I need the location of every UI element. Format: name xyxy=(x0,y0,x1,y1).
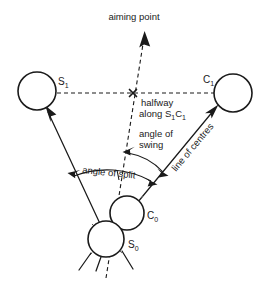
halfway-along-s-text: along S xyxy=(139,108,171,119)
halfway-label-line1: halfway xyxy=(141,97,173,108)
aiming-point-arrowhead xyxy=(139,31,150,48)
ball-label-c0-main: C xyxy=(147,210,154,221)
ball-label-s1-sub: 1 xyxy=(65,82,69,89)
ball-label-s1: S1 xyxy=(58,76,69,89)
angle-of-split-label: angle of split xyxy=(82,164,137,181)
ball-s0 xyxy=(88,221,124,257)
angle-of-swing-label-line1: angle of xyxy=(139,128,173,139)
angle-of-split-arrow-right xyxy=(145,178,157,187)
impact-ray-left xyxy=(79,253,91,270)
ball-c1 xyxy=(214,74,252,112)
ball-label-c0: C0 xyxy=(147,210,158,223)
ball-s1 xyxy=(18,72,56,110)
ball-label-c0-sub: 0 xyxy=(154,216,158,223)
aiming-point-label: aiming point xyxy=(108,11,160,22)
ball-label-s0: S0 xyxy=(128,239,139,252)
impact-ray-right xyxy=(122,251,133,269)
line-of-centres-arrowhead xyxy=(205,105,219,119)
line-of-centres-label: line of centres xyxy=(169,121,216,174)
ball-label-c1-sub: 1 xyxy=(210,80,214,87)
ball-label-c1-main: C xyxy=(203,74,210,85)
billiards-aiming-diagram: aiming point halfway along S1C1 angle of… xyxy=(0,0,268,288)
impact-ray-center-left xyxy=(96,257,101,271)
angle-of-swing-label-line2: swing xyxy=(139,139,163,150)
diagram-root: aiming point halfway along S1C1 angle of… xyxy=(0,0,268,288)
halfway-c-subscript: 1 xyxy=(182,114,186,121)
ball-label-c1: C1 xyxy=(203,74,214,87)
halfway-label-line2: along S1C1 xyxy=(139,108,186,121)
ball-label-s0-sub: 0 xyxy=(135,245,139,252)
